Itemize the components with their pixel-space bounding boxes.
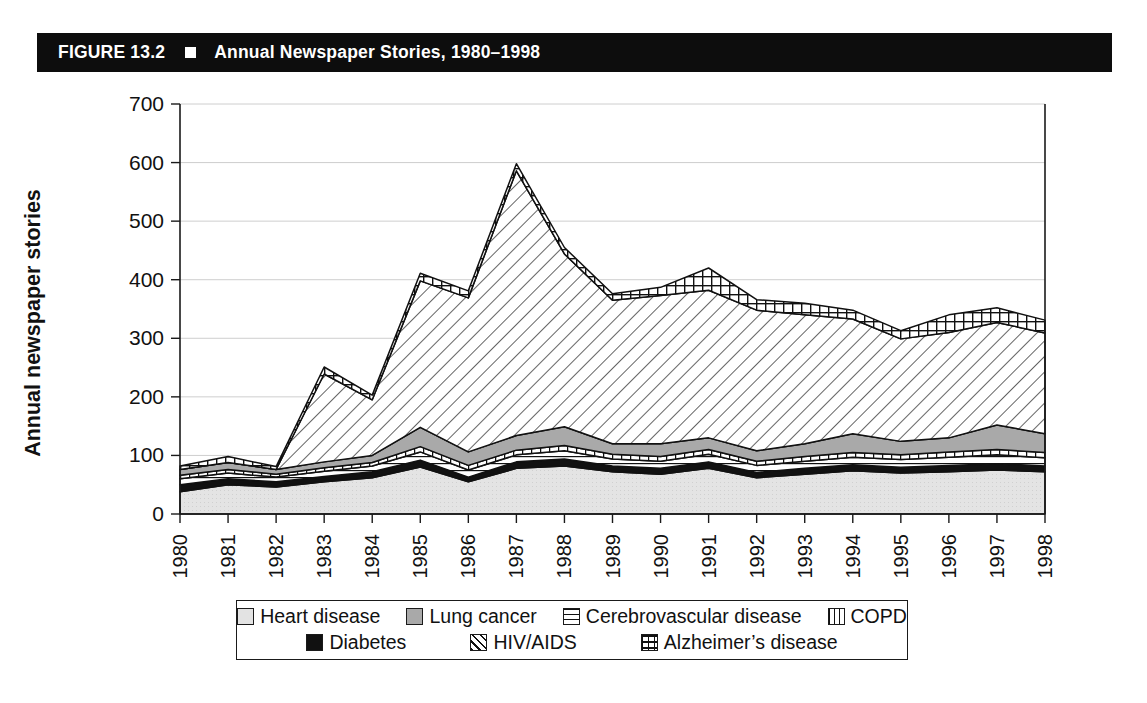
y-tick-label: 700 — [129, 92, 164, 115]
x-tick-label: 1992 — [746, 534, 768, 579]
x-tick-label: 1989 — [602, 534, 624, 579]
figure-number: FIGURE 13.2 — [58, 42, 165, 63]
y-tick-label: 0 — [152, 502, 164, 525]
black-square-icon — [306, 634, 323, 651]
y-tick-label: 500 — [129, 209, 164, 232]
figure-title: Annual Newspaper Stories, 1980–1998 — [214, 42, 540, 63]
x-tick-label: 1982 — [265, 534, 287, 579]
chart-legend: Heart diseaseLung cancerCerebrovascular … — [236, 600, 908, 660]
horizontal-lines-square-icon — [563, 608, 580, 625]
white-square-icon — [185, 47, 196, 58]
x-tick-label: 1997 — [986, 534, 1008, 579]
legend-item-copd[interactable]: COPD — [828, 607, 907, 627]
x-tick-label: 1980 — [169, 534, 191, 579]
x-tick-label: 1996 — [938, 534, 960, 579]
legend-row-2: DiabetesHIV/AIDSAlzheimer’s disease — [237, 633, 907, 653]
y-tick-label: 100 — [129, 443, 164, 466]
x-tick-label: 1995 — [890, 534, 912, 579]
x-tick-label: 1990 — [650, 534, 672, 579]
legend-label: Cerebrovascular disease — [586, 607, 802, 627]
x-tick-label: 1981 — [217, 534, 239, 579]
light-gray-square-icon — [237, 608, 254, 625]
legend-row-1: Heart diseaseLung cancerCerebrovascular … — [237, 607, 907, 627]
figure-title-bar: FIGURE 13.2 Annual Newspaper Stories, 19… — [37, 33, 1112, 72]
y-axis-title: Annual newspaper stories — [21, 189, 45, 457]
checkered-square-icon — [641, 634, 658, 651]
x-tick-label: 1987 — [505, 534, 527, 579]
x-tick-label: 1984 — [361, 534, 383, 579]
figure-container: FIGURE 13.2 Annual Newspaper Stories, 19… — [0, 0, 1147, 703]
legend-label: HIV/AIDS — [493, 633, 576, 653]
legend-item-cerebrovascular-disease[interactable]: Cerebrovascular disease — [563, 607, 802, 627]
y-tick-label: 600 — [129, 151, 164, 174]
chart-area: 0100200300400500600700 19801981198219831… — [0, 78, 1147, 598]
x-tick-label: 1991 — [698, 534, 720, 579]
x-tick-label: 1985 — [409, 534, 431, 579]
medium-gray-square-icon — [406, 608, 423, 625]
y-tick-label: 300 — [129, 326, 164, 349]
y-tick-label: 400 — [129, 268, 164, 291]
vertical-lines-square-icon — [828, 608, 845, 625]
legend-item-hiv-aids[interactable]: HIV/AIDS — [470, 633, 576, 653]
legend-item-heart-disease[interactable]: Heart disease — [237, 607, 380, 627]
legend-item-alzheimer-s-disease[interactable]: Alzheimer’s disease — [641, 633, 838, 653]
legend-label: Lung cancer — [429, 607, 536, 627]
y-tick-label: 200 — [129, 385, 164, 408]
legend-item-lung-cancer[interactable]: Lung cancer — [406, 607, 536, 627]
x-tick-labels: 1980198119821983198419851986198719881989… — [169, 534, 1056, 579]
legend-label: Heart disease — [260, 607, 380, 627]
diagonal-hatch-square-icon — [470, 634, 487, 651]
x-tick-label: 1994 — [842, 534, 864, 579]
series-areas — [180, 164, 1045, 514]
y-tick-labels: 0100200300400500600700 — [129, 92, 164, 525]
x-tick-label: 1988 — [553, 534, 575, 579]
area-hiv-aids — [180, 171, 1045, 470]
x-tick-label: 1986 — [457, 534, 479, 579]
legend-label: COPD — [851, 607, 907, 627]
legend-label: Diabetes — [329, 633, 406, 653]
legend-item-diabetes[interactable]: Diabetes — [306, 633, 406, 653]
x-tick-label: 1983 — [313, 534, 335, 579]
stacked-area-chart: 0100200300400500600700 19801981198219831… — [0, 78, 1147, 598]
x-tick-label: 1998 — [1034, 534, 1056, 579]
legend-label: Alzheimer’s disease — [664, 633, 838, 653]
x-tick-label: 1993 — [794, 534, 816, 579]
